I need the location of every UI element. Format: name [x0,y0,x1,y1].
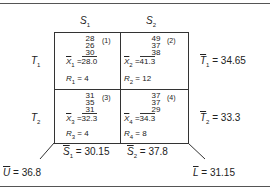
cell-mean-subscript: 2 [129,62,132,68]
equals-sign: = [135,114,140,123]
column-label: S [80,15,87,26]
row-mean-subscript: 2 [206,119,209,125]
row-header-t1: T1 [31,55,40,68]
lower-mean-value: = 31.15 [201,167,235,178]
cell-value: 38 [146,49,166,56]
cell-4: 37 37 29 (4) X4 =34.3 R4 = 8 [120,89,188,143]
column-header-s2: S2 [146,15,156,28]
cell-2: 49 37 38 (2) X2 =41.3 R2 = 12 [120,32,188,89]
cell-1: 28 26 30 (1) X1 =28.0 R1 = 4 [54,32,120,89]
cell-value: 31 [80,106,100,113]
right-diagonal [188,143,205,159]
cell-tag: (2) [167,37,176,44]
cell-range: R3 = 4 [66,129,89,140]
row-subscript: 1 [37,62,40,68]
row-mean-t2: T2 = 33.3 [200,112,240,125]
column-subscript: 2 [153,22,156,28]
cell-value: 30 [80,49,100,56]
equals-sign: = [135,57,140,66]
cell-value: 29 [146,106,166,113]
column-mean-subscript: 1 [70,153,73,159]
column-mean-s2: S2 = 37.8 [127,146,168,159]
column-mean-label: S [63,146,70,157]
row-mean-subscript: 1 [206,62,209,68]
equals-sign: = [77,114,82,123]
column-header-s1: S1 [80,15,90,28]
lower-diagonal-mean: L = 31.15 [193,167,235,178]
cell-range: R1 = 4 [66,74,89,85]
cell-mean: X1 =28.0 [66,57,97,68]
cell-3: 31 35 31 (3) X3 =32.3 R3 = 4 [54,89,120,143]
cell-range-subscript: 1 [72,79,75,85]
left-diagonal [40,143,54,159]
cell-tag: (1) [102,37,111,44]
column-label: S [146,15,153,26]
cell-range-value: = 4 [77,129,88,138]
column-subscript: 1 [87,22,90,28]
cell-mean: X2 =41.3 [124,57,155,68]
cell-tag: (4) [167,94,176,101]
cell-range: R4 = 8 [124,129,147,140]
upper-mean-value: = 36.8 [13,167,41,178]
row-header-t2: T2 [31,112,40,125]
cell-mean-subscript: 3 [71,119,74,125]
cell-mean-value: 41.3 [140,56,156,66]
cell-mean-value: 32.3 [82,113,98,123]
cell-mean: X3 =32.3 [66,114,97,125]
cell-mean-value: 28.0 [82,56,98,66]
cell-range-subscript: 3 [72,134,75,140]
cell-range-subscript: 4 [130,134,133,140]
column-mean-label: S [127,146,134,157]
cell-mean-value: 34.3 [140,113,156,123]
equals-sign: = [77,57,82,66]
row-subscript: 2 [37,119,40,125]
cell-range-value: = 12 [135,74,151,83]
column-mean-value: = 30.15 [76,146,110,157]
lower-mean-label: L [193,167,199,178]
cell-tag: (3) [102,94,111,101]
column-mean-value: = 37.8 [140,146,168,157]
column-mean-s1: S1 = 30.15 [63,146,109,159]
cell-mean: X4 =34.3 [124,114,155,125]
cell-mean-subscript: 4 [129,119,132,125]
row-mean-value: = 33.3 [212,112,240,123]
row-mean-value: = 34.65 [212,55,246,66]
upper-mean-label: U [3,167,10,178]
cell-mean-subscript: 1 [71,62,74,68]
cell-range: R2 = 12 [124,74,151,85]
cell-range-subscript: 2 [130,79,133,85]
cell-range-value: = 8 [135,129,146,138]
upper-diagonal-mean: U = 36.8 [3,167,41,178]
column-mean-subscript: 2 [134,153,137,159]
row-mean-t1: T1 = 34.65 [200,55,246,68]
cell-range-value: = 4 [77,74,88,83]
